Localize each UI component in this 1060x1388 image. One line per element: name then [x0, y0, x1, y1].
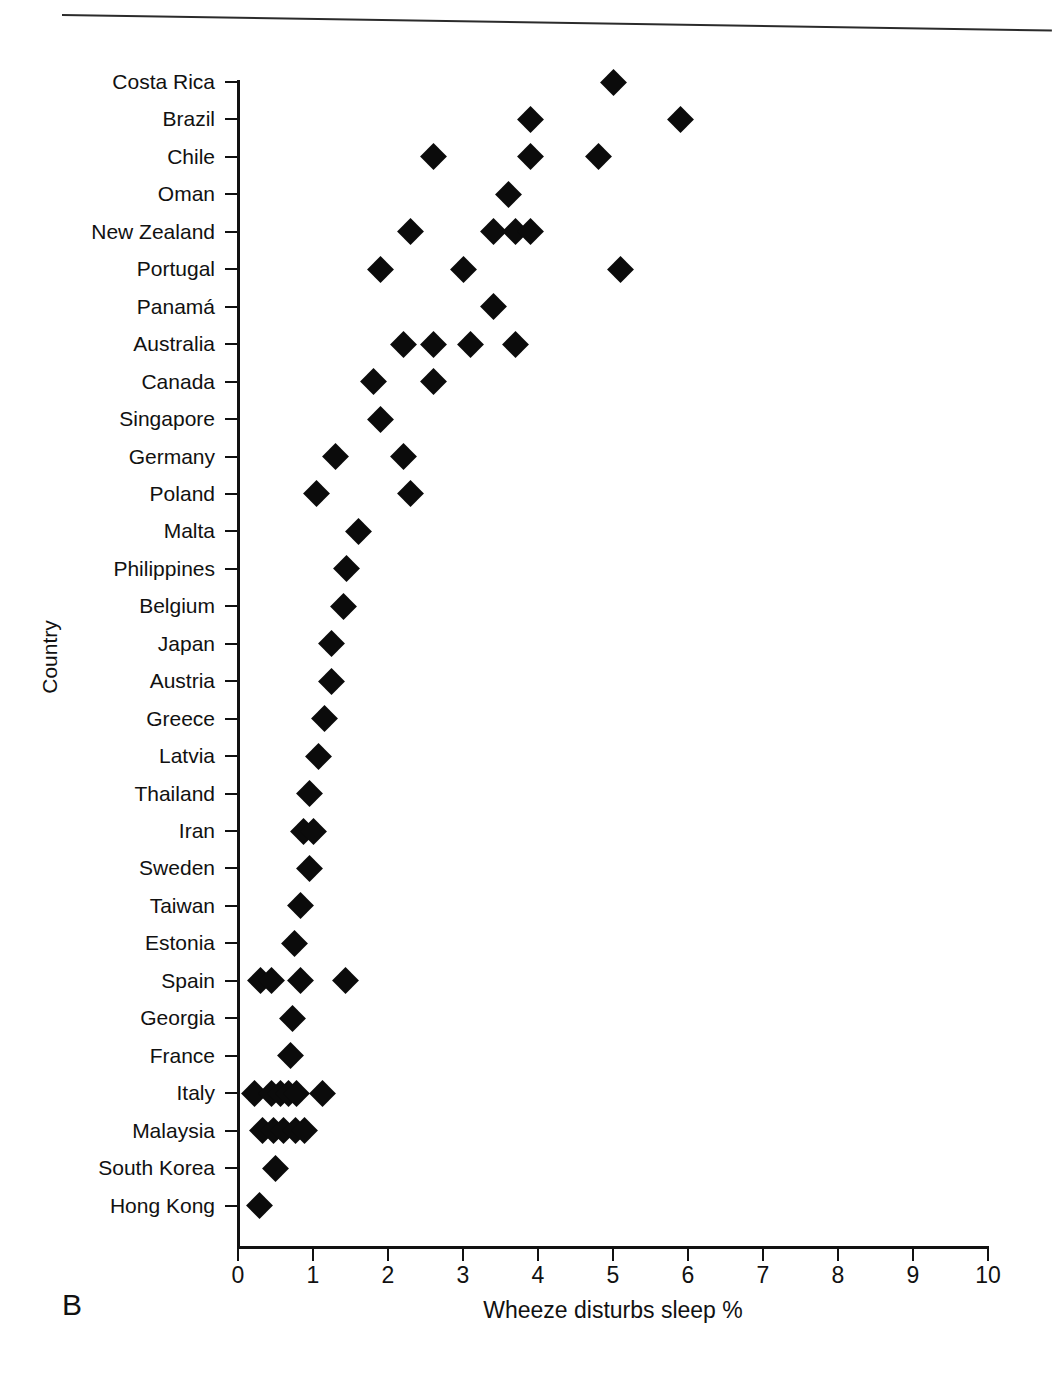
x-axis-tick — [912, 1249, 914, 1261]
y-axis-tick — [225, 867, 237, 869]
y-axis-category-label: Greece — [0, 708, 215, 729]
data-point-marker — [330, 593, 357, 620]
y-axis-category-label: Georgia — [0, 1007, 215, 1028]
y-axis-tick — [225, 1092, 237, 1094]
data-point-marker — [311, 705, 338, 732]
y-axis-tick — [225, 830, 237, 832]
y-axis-tick — [225, 568, 237, 570]
data-point-marker — [367, 256, 394, 283]
data-point-marker — [420, 368, 447, 395]
x-axis-tick-label: 10 — [968, 1264, 1008, 1287]
x-axis-tick-label: 1 — [293, 1264, 333, 1287]
data-point-marker — [397, 218, 424, 245]
data-point-marker — [457, 331, 484, 358]
y-axis-tick — [225, 980, 237, 982]
y-axis-title: Country — [38, 587, 62, 727]
data-point-marker — [309, 1080, 336, 1107]
y-axis-category-label: Thailand — [0, 783, 215, 804]
y-axis-category-label: Poland — [0, 483, 215, 504]
y-axis-category-label: Portugal — [0, 258, 215, 279]
x-axis-tick-label: 2 — [368, 1264, 408, 1287]
x-axis-tick — [537, 1249, 539, 1261]
y-axis-category-label: Belgium — [0, 595, 215, 616]
y-axis-category-label: Chile — [0, 146, 215, 167]
x-axis-tick — [312, 1249, 314, 1261]
data-point-marker — [495, 181, 522, 208]
data-point-marker — [303, 481, 330, 508]
data-point-marker — [517, 218, 544, 245]
data-point-marker — [367, 406, 394, 433]
y-axis-category-label: Iran — [0, 820, 215, 841]
y-axis-tick — [225, 81, 237, 83]
x-axis-tick — [987, 1249, 989, 1261]
y-axis-category-label: Brazil — [0, 108, 215, 129]
y-axis-category-label: Costa Rica — [0, 71, 215, 92]
y-axis-category-label: South Korea — [0, 1157, 215, 1178]
y-axis-tick — [225, 755, 237, 757]
x-axis-tick-label: 3 — [443, 1264, 483, 1287]
data-point-marker — [585, 143, 612, 170]
y-axis-category-label: Hong Kong — [0, 1195, 215, 1216]
x-axis-title: Wheeze disturbs sleep % — [237, 1297, 989, 1324]
scatter-plot-area: Costa RicaBrazilChileOmanNew ZealandPort… — [0, 0, 1060, 1388]
data-point-marker — [420, 331, 447, 358]
data-point-marker — [360, 368, 387, 395]
y-axis-category-label: Malta — [0, 520, 215, 541]
panel-letter: B — [62, 1288, 82, 1322]
y-axis-tick — [225, 418, 237, 420]
data-point-marker — [600, 69, 627, 96]
y-axis-tick — [225, 1055, 237, 1057]
data-point-marker — [517, 106, 544, 133]
data-point-marker — [281, 930, 308, 957]
data-point-marker — [397, 481, 424, 508]
data-point-marker — [296, 855, 323, 882]
y-axis-category-label: Austria — [0, 670, 215, 691]
y-axis-category-label: Taiwan — [0, 895, 215, 916]
x-axis-tick-label: 8 — [818, 1264, 858, 1287]
x-axis-tick-label: 6 — [668, 1264, 708, 1287]
y-axis-tick — [225, 343, 237, 345]
data-point-marker — [480, 293, 507, 320]
y-axis-category-label: Panamá — [0, 296, 215, 317]
y-axis-tick — [225, 118, 237, 120]
data-point-marker — [318, 668, 345, 695]
x-axis-tick — [612, 1249, 614, 1261]
y-axis-tick — [225, 306, 237, 308]
y-axis-category-label: France — [0, 1045, 215, 1066]
x-axis-tick-label: 4 — [518, 1264, 558, 1287]
y-axis-tick — [225, 793, 237, 795]
x-axis-tick — [687, 1249, 689, 1261]
data-point-marker — [502, 331, 529, 358]
y-axis-tick — [225, 1167, 237, 1169]
y-axis-tick — [225, 193, 237, 195]
y-axis-tick — [225, 905, 237, 907]
y-axis-tick — [225, 680, 237, 682]
x-axis-tick — [387, 1249, 389, 1261]
y-axis-tick — [225, 268, 237, 270]
y-axis-tick — [225, 456, 237, 458]
data-point-marker — [287, 967, 314, 994]
y-axis-category-label: Sweden — [0, 857, 215, 878]
y-axis-tick — [225, 605, 237, 607]
y-axis-tick — [225, 718, 237, 720]
y-axis-tick — [225, 942, 237, 944]
x-axis-tick — [837, 1249, 839, 1261]
x-axis-tick-label: 7 — [743, 1264, 783, 1287]
data-point-marker — [318, 630, 345, 657]
data-point-marker — [420, 143, 447, 170]
x-axis-tick-label: 9 — [893, 1264, 933, 1287]
data-point-marker — [296, 780, 323, 807]
figure-panel-b: Costa RicaBrazilChileOmanNew ZealandPort… — [0, 0, 1060, 1388]
y-axis-tick — [225, 1017, 237, 1019]
y-axis-tick — [225, 1205, 237, 1207]
data-point-marker — [322, 443, 349, 470]
y-axis-category-label: Philippines — [0, 558, 215, 579]
y-axis-tick — [225, 381, 237, 383]
y-axis-category-label: Italy — [0, 1082, 215, 1103]
x-axis-tick-label: 5 — [593, 1264, 633, 1287]
data-point-marker — [345, 518, 372, 545]
y-axis-category-label: Latvia — [0, 745, 215, 766]
y-axis-category-label: Spain — [0, 970, 215, 991]
y-axis-category-label: Germany — [0, 446, 215, 467]
y-axis-category-label: Singapore — [0, 408, 215, 429]
